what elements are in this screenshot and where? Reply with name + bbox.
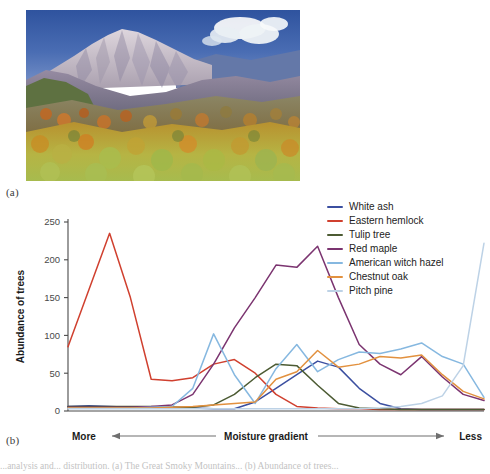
photograph-image (26, 10, 300, 181)
series-line-chestnut-oak (68, 351, 484, 408)
legend-item[interactable]: Chestnut oak (327, 270, 487, 284)
legend-swatch-icon (327, 276, 343, 278)
legend-item[interactable]: Tulip tree (327, 228, 487, 242)
y-tick-label: 150 (44, 292, 60, 303)
legend-label: American witch hazel (349, 258, 443, 268)
legend-swatch-icon (327, 234, 343, 236)
legend-item[interactable]: American witch hazel (327, 256, 487, 270)
legend-item[interactable]: Eastern hemlock (327, 214, 487, 228)
panel-label-b: (b) (6, 434, 19, 446)
legend-label: Pitch pine (349, 286, 393, 296)
legend-swatch-icon (327, 290, 343, 292)
figure-caption: ...analysis and... distribution. (a) The… (0, 462, 490, 471)
legend-label: Eastern hemlock (349, 216, 423, 226)
legend-swatch-icon (327, 262, 343, 264)
mountain-photograph (26, 10, 300, 181)
left-arrow-head-icon (112, 433, 120, 439)
legend-item[interactable]: Red maple (327, 242, 487, 256)
x-axis-less-label: Less (459, 431, 482, 442)
y-axis-title: Abundance of trees (15, 269, 26, 363)
legend-label: Chestnut oak (349, 272, 408, 282)
legend-label: White ash (349, 202, 393, 212)
legend-item[interactable]: Pitch pine (327, 284, 487, 298)
x-axis-title: Moisture gradient (224, 431, 309, 442)
y-tick-label: 200 (44, 254, 60, 265)
right-arrow-head-icon (436, 433, 444, 439)
y-tick-label: 100 (44, 330, 60, 341)
panel-label-a: (a) (6, 186, 19, 198)
legend-swatch-icon (327, 248, 343, 250)
y-tick-label: 50 (49, 368, 60, 379)
y-tick-label: 0 (55, 405, 60, 416)
legend-item[interactable]: White ash (327, 200, 487, 214)
x-axis-annotations: MoreLessMoisture gradient (72, 431, 482, 442)
series-line-american-witch-hazel (68, 334, 484, 408)
chart-legend: White ashEastern hemlockTulip treeRed ma… (327, 200, 487, 298)
figure-caption-strip: ...analysis and... distribution. (a) The… (0, 462, 490, 474)
legend-swatch-icon (327, 206, 343, 208)
figure-root: (a) 050100150200250Abundance of trees Mo… (0, 0, 490, 474)
legend-label: Red maple (349, 244, 397, 254)
legend-swatch-icon (327, 220, 343, 222)
x-axis-more-label: More (72, 431, 96, 442)
legend-label: Tulip tree (349, 230, 390, 240)
y-tick-label: 250 (44, 216, 60, 227)
